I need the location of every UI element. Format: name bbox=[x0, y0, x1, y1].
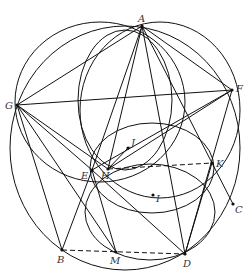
segment-AK bbox=[142, 26, 212, 163]
segment-AF bbox=[142, 26, 232, 90]
segment-KD bbox=[185, 163, 212, 254]
geometry-diagram: AFGJEHKICBMD bbox=[0, 0, 249, 280]
label-A: A bbox=[137, 13, 145, 24]
point-A bbox=[140, 24, 143, 27]
circumcircle bbox=[10, 26, 240, 270]
segment-GB bbox=[17, 105, 62, 250]
point-D bbox=[183, 252, 186, 255]
label-M: M bbox=[109, 255, 121, 266]
segment-AG bbox=[17, 26, 142, 105]
point-I bbox=[151, 193, 154, 196]
point-E bbox=[90, 168, 93, 171]
point-G bbox=[15, 103, 18, 106]
segment-GH bbox=[17, 105, 108, 169]
label-I: I bbox=[155, 193, 161, 204]
point-K bbox=[210, 161, 213, 164]
segment-AH bbox=[108, 26, 142, 169]
dashed-segment-BD bbox=[62, 250, 185, 254]
segment-KC bbox=[212, 163, 233, 204]
diagram-canvas: AFGJEHKICBMD bbox=[0, 0, 249, 280]
label-K: K bbox=[215, 158, 224, 169]
label-H: H bbox=[100, 170, 110, 181]
segment-FH bbox=[108, 90, 232, 169]
label-E: E bbox=[80, 170, 89, 181]
circle-AGE bbox=[15, 22, 185, 182]
label-G: G bbox=[5, 100, 13, 111]
label-F: F bbox=[235, 83, 244, 94]
label-C: C bbox=[235, 204, 243, 215]
label-B: B bbox=[56, 254, 64, 265]
segment-AE bbox=[92, 26, 142, 170]
label-J: J bbox=[129, 137, 136, 148]
label-D: D bbox=[182, 258, 191, 269]
segment-FE bbox=[92, 90, 232, 170]
point-F bbox=[230, 88, 233, 91]
point-B bbox=[60, 248, 63, 251]
point-J bbox=[126, 146, 129, 149]
point-M bbox=[114, 250, 117, 253]
